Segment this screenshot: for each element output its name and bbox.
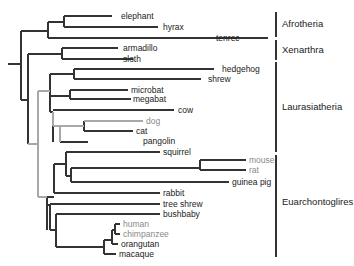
tree-diagram: elephanthyraxtenrecarmadilloslothhedgeho…: [0, 0, 354, 266]
boreo-stem: [21, 54, 28, 144]
taxon-label-cow: cow: [178, 105, 194, 115]
taxon-label-hedgehog: hedgehog: [222, 64, 260, 74]
taxon-label-rabbit: rabbit: [163, 188, 185, 198]
taxon-label-tree-shrew: tree shrew: [163, 199, 204, 209]
taxon-label-bushbaby: bushbaby: [163, 209, 201, 219]
highlighted-branches: [28, 91, 143, 197]
taxon-label-megabat: megabat: [133, 94, 167, 104]
taxon-label-sloth: sloth: [123, 54, 141, 64]
taxon-label-cat: cat: [136, 126, 148, 136]
taxon-label-armadillo: armadillo: [123, 43, 158, 53]
taxon-label-chimpanzee: chimpanzee: [123, 229, 169, 239]
taxon-label-dog: dog: [146, 116, 160, 126]
taxon-label-orangutan: orangutan: [121, 239, 160, 249]
taxon-label-mouse: mouse: [249, 155, 275, 165]
taxon-label-tenrec: tenrec: [216, 33, 240, 43]
taxon-label-squirrel: squirrel: [163, 147, 191, 157]
clade-label-afrotheria: Afrotheria: [282, 18, 324, 29]
xenarthra-branch: [28, 48, 133, 59]
gray-stem: [28, 91, 50, 197]
taxon-labels: elephanthyraxtenrecarmadilloslothhedgeho…: [119, 11, 275, 259]
taxon-label-human: human: [123, 219, 149, 229]
clade-labels: AfrotheriaXenarthraLaurasiatheriaEuarcho…: [282, 18, 354, 207]
taxon-label-macaque: macaque: [119, 249, 154, 259]
taxon-label-hyrax: hyrax: [163, 22, 185, 32]
gray-carnivora-stem: [53, 112, 84, 142]
clade-label-laurasiatheria: Laurasiatheria: [282, 101, 343, 112]
taxon-label-guinea-pig: guinea pig: [232, 177, 272, 187]
clade-label-euarchontoglires: Euarchontoglires: [282, 196, 354, 207]
taxon-label-pangolin: pangolin: [143, 136, 175, 146]
taxon-label-shrew: shrew: [208, 74, 232, 84]
taxon-label-rat: rat: [249, 165, 260, 175]
taxon-label-elephant: elephant: [121, 11, 154, 21]
phylogenetic-tree-figure: elephanthyraxtenrecarmadilloslothhedgeho…: [0, 0, 354, 266]
clade-label-xenarthra: Xenarthra: [282, 44, 324, 55]
